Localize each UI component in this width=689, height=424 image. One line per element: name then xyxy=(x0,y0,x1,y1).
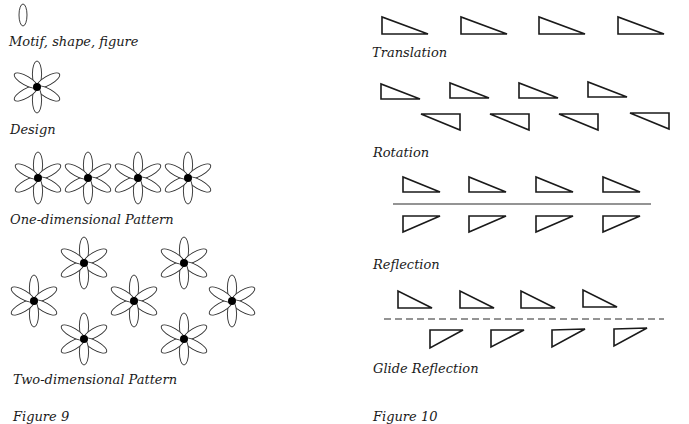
reflection-row-upper xyxy=(403,177,640,192)
one-dimensional-pattern xyxy=(13,152,213,204)
glide-reflection-label: Glide Reflection xyxy=(373,362,479,375)
reflection-row-lower xyxy=(403,216,640,232)
figure-9-caption: Figure 9 xyxy=(13,410,69,423)
rotation-label: Rotation xyxy=(373,146,429,159)
one-dimensional-pattern-label: One-dimensional Pattern xyxy=(10,213,174,226)
translation-row xyxy=(382,17,664,34)
translation-label: Translation xyxy=(372,46,447,59)
reflection-label: Reflection xyxy=(373,258,440,271)
figure-10-caption: Figure 10 xyxy=(373,410,437,423)
rotation-row-upper xyxy=(381,82,627,99)
rotation-row-lower xyxy=(421,113,669,130)
design-flower xyxy=(12,61,62,113)
motif-label: Motif, shape, figure xyxy=(9,35,138,48)
design-label: Design xyxy=(10,123,56,136)
glide-reflection-row-upper xyxy=(398,290,617,308)
glide-reflection-row-lower xyxy=(430,328,647,348)
two-dimensional-pattern-label: Two-dimensional Pattern xyxy=(13,373,177,386)
motif-ellipse xyxy=(19,4,27,26)
two-dimensional-pattern xyxy=(9,237,257,365)
